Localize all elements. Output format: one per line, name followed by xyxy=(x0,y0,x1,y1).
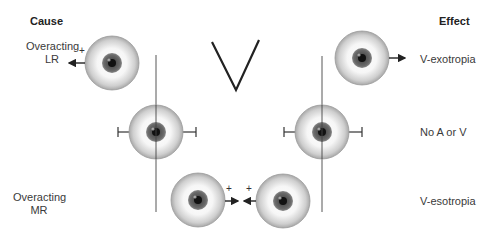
eye-bottom-left xyxy=(171,173,225,227)
plus-sign-mr-left: + xyxy=(226,183,232,194)
eye-middle-right xyxy=(284,105,362,159)
eye-top-left xyxy=(85,36,139,90)
plus-sign-mr-right: + xyxy=(246,183,252,194)
eye-top-right xyxy=(335,31,389,85)
eye-middle-left xyxy=(118,105,196,159)
v-pattern-symbol xyxy=(212,40,259,90)
eye-bottom-right xyxy=(256,174,310,228)
diagram-canvas: + + + xyxy=(0,0,482,240)
plus-sign-lr: + xyxy=(79,45,85,56)
